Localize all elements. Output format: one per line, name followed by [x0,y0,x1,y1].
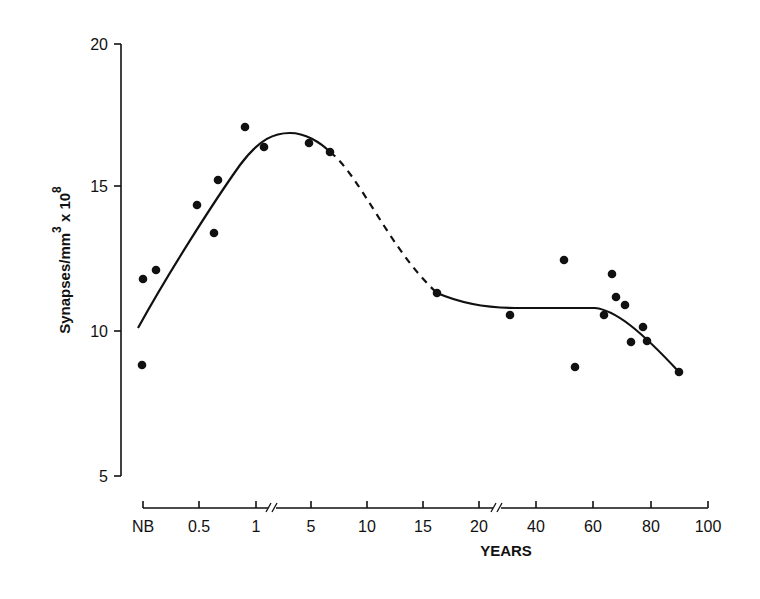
data-point [675,368,684,377]
data-points [138,123,684,377]
data-point [260,143,269,152]
data-point [139,275,148,284]
data-point [193,201,202,210]
data-point [214,176,223,185]
x-tick-label: 100 [695,518,722,535]
data-point [138,361,147,370]
data-point [210,229,219,238]
data-point [305,139,314,148]
data-point [433,289,442,298]
x-axis-title: YEARS [480,542,532,559]
x-tick-label: 10 [358,518,376,535]
data-point [241,123,250,132]
data-point [600,311,609,320]
synapse-density-chart: 5101520 Synapses/mm3 x 108 NB0.515101520… [0,0,760,599]
y-axis-title: Synapses/mm3 x 108 [50,186,73,334]
data-point [571,363,580,372]
data-point [152,266,161,275]
y-tick-label: 15 [90,178,108,195]
x-axis: NB0.515101520406080100 [132,501,722,535]
x-tick-label: 80 [642,518,660,535]
data-point [639,323,648,332]
data-point [506,311,515,320]
curve-dashed [330,152,437,293]
data-point [621,301,630,310]
x-tick-label: 20 [470,518,488,535]
data-point [560,256,569,265]
fitted-curve [138,133,679,372]
curve-solid-late [437,293,679,372]
y-axis: 5101520 [90,36,121,485]
x-tick-label: 0.5 [188,518,210,535]
y-tick-label: 10 [90,323,108,340]
data-point [612,293,621,302]
curve-solid-early [138,133,330,328]
x-tick-label: NB [132,518,154,535]
y-tick-label: 5 [99,468,108,485]
svg-text:Synapses/mm3 x 108: Synapses/mm3 x 108 [50,186,73,334]
y-tick-label: 20 [90,36,108,53]
x-tick-label: 60 [584,518,602,535]
x-tick-label: 1 [252,518,261,535]
data-point [326,148,335,157]
x-tick-label: 40 [527,518,545,535]
data-point [643,337,652,346]
data-point [627,338,636,347]
x-tick-label: 5 [307,518,316,535]
data-point [608,270,617,279]
x-tick-label: 15 [414,518,432,535]
